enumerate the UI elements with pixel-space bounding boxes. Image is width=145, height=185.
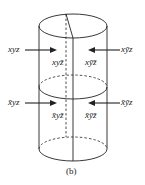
top-ellipse (39, 14, 107, 38)
label-top-left-inside: xyz̄ (52, 58, 64, 67)
label-bottom-left-outside: x̄yz (8, 98, 20, 107)
label-bottom-right-outside: x̄ȳz (121, 98, 133, 107)
arrow-top-right (88, 47, 120, 53)
cylinder-diagram (0, 0, 145, 185)
arrow-bottom-right (88, 100, 120, 106)
arrow-bottom-left (25, 100, 57, 106)
figure-caption: (b) (66, 167, 77, 176)
label-top-left-outside: xyz (8, 45, 20, 54)
label-top-right-outside: xȳz (121, 45, 133, 54)
label-top-right-inside: xȳz̄ (85, 58, 97, 67)
label-bottom-left-inside: x̄yz̄ (52, 111, 64, 120)
arrow-top-left (25, 47, 57, 53)
label-bottom-right-inside: x̄ȳz̄ (85, 111, 97, 120)
top-divider (66, 14, 73, 38)
